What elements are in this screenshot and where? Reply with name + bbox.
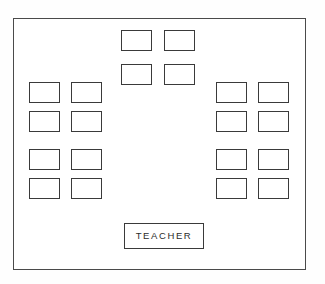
desk-front-4[interactable] — [164, 64, 195, 85]
desk-left-3[interactable] — [29, 111, 60, 132]
desk-right-5[interactable] — [216, 149, 247, 170]
desk-right-4[interactable] — [258, 111, 289, 132]
desk-right-6[interactable] — [258, 149, 289, 170]
classroom-boundary: TEACHER — [13, 18, 306, 270]
seating-chart-canvas: TEACHER — [0, 0, 325, 284]
teacher-desk-label: TEACHER — [136, 231, 193, 241]
desk-left-4[interactable] — [71, 111, 102, 132]
desk-left-1[interactable] — [29, 82, 60, 103]
desk-left-6[interactable] — [71, 149, 102, 170]
desk-right-2[interactable] — [258, 82, 289, 103]
teacher-desk[interactable]: TEACHER — [124, 223, 204, 249]
desk-right-8[interactable] — [258, 178, 289, 199]
desk-left-8[interactable] — [71, 178, 102, 199]
desk-left-7[interactable] — [29, 178, 60, 199]
desk-left-5[interactable] — [29, 149, 60, 170]
desk-right-1[interactable] — [216, 82, 247, 103]
desk-front-3[interactable] — [121, 64, 152, 85]
desk-front-1[interactable] — [121, 30, 152, 51]
desk-right-3[interactable] — [216, 111, 247, 132]
desk-right-7[interactable] — [216, 178, 247, 199]
desk-left-2[interactable] — [71, 82, 102, 103]
desk-front-2[interactable] — [164, 30, 195, 51]
